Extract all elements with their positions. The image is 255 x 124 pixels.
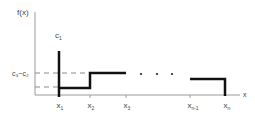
y-axis-label: f(x) bbox=[17, 9, 29, 17]
tick-label-x1: x1 bbox=[57, 102, 64, 111]
step-segment-1-2 bbox=[59, 73, 126, 88]
step-segment-last bbox=[190, 79, 225, 96]
tick-label-x2: x2 bbox=[88, 102, 95, 111]
tick-label-xn-1: xn-1 bbox=[187, 102, 198, 111]
tick-label-x3: x3 bbox=[124, 102, 131, 111]
tick-label-xn: xn bbox=[224, 102, 231, 111]
ellipsis-dots bbox=[140, 73, 173, 75]
x-axis-label: x bbox=[243, 91, 247, 98]
label-c1: c1 bbox=[55, 32, 62, 41]
label-c3-minus-c2: c₃−c₂ bbox=[12, 70, 29, 77]
step-function-diagram: f(x) x c1 c₃−c₂ x1 x2 x3 xn-1 xn bbox=[0, 0, 255, 124]
